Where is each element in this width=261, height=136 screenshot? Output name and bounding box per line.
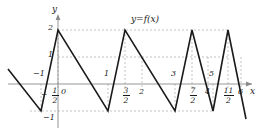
x-tick-neg-half-numerator: 1 bbox=[48, 87, 62, 95]
y-axis-label: y bbox=[52, 5, 57, 14]
x-tick-three-halves-denominator: 2 bbox=[119, 97, 133, 105]
x-tick-5: 5 bbox=[209, 70, 214, 78]
x-tick-4: 4 bbox=[205, 88, 210, 96]
x-tick-1: 1 bbox=[104, 70, 109, 78]
x-tick-2: 2 bbox=[139, 88, 144, 96]
x-tick-eleven-halves: 11 2 bbox=[220, 87, 237, 105]
x-tick-3: 3 bbox=[171, 70, 176, 78]
graph-figure: y x y=f(x) 2 1 −1 −1 0 1 2 3 4 5 6 − 1 2… bbox=[0, 0, 261, 136]
y-tick-1: 1 bbox=[48, 51, 53, 59]
function-label: y=f(x) bbox=[131, 15, 159, 24]
x-tick-6: 6 bbox=[238, 88, 243, 96]
x-tick-seven-halves: 7 2 bbox=[186, 87, 200, 105]
y-tick-2: 2 bbox=[48, 24, 53, 32]
x-tick-eleven-halves-denominator: 2 bbox=[220, 97, 237, 105]
x-tick-neg-1: −1 bbox=[33, 70, 45, 78]
x-tick-eleven-halves-numerator: 11 bbox=[220, 87, 237, 95]
x-tick-seven-halves-denominator: 2 bbox=[186, 97, 200, 105]
x-tick-neg-half: 1 2 bbox=[48, 87, 62, 105]
x-tick-three-halves-numerator: 3 bbox=[119, 87, 133, 95]
x-tick-three-halves: 3 2 bbox=[119, 87, 133, 105]
y-axis-arrow bbox=[56, 14, 61, 20]
x-tick-neg-half-minus: − bbox=[41, 90, 47, 99]
x-axis-label: x bbox=[250, 87, 255, 96]
y-tick-neg-1: −1 bbox=[43, 114, 55, 122]
x-tick-neg-half-denominator: 2 bbox=[48, 97, 62, 105]
x-tick-seven-halves-numerator: 7 bbox=[186, 87, 200, 95]
